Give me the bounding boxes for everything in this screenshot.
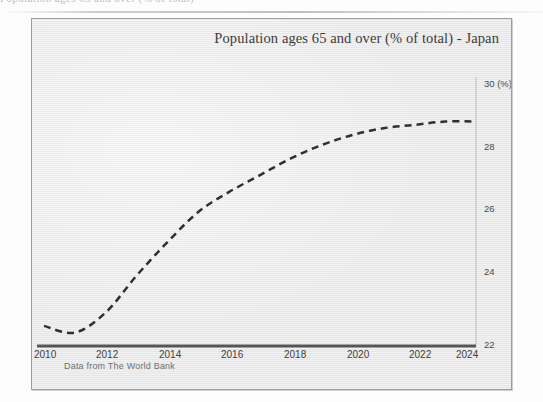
y-tick-label-28: 28 (484, 141, 495, 152)
x-tick-label-2014: 2014 (159, 349, 181, 360)
scanned-page: Population ages 65 and over (% of total)… (0, 0, 543, 402)
chart-title: Population ages 65 and over (% of total)… (214, 30, 499, 47)
x-tick-label-2018: 2018 (284, 349, 306, 360)
x-tick-label-2022: 2022 (409, 349, 431, 360)
y-tick-label-26: 26 (484, 203, 495, 214)
y-tick-label-24: 24 (484, 266, 495, 277)
x-tick-label-2016: 2016 (221, 349, 243, 360)
series-line-japan (44, 121, 476, 333)
chart-plot-area (32, 19, 511, 389)
source-note: Data from The World Bank (64, 361, 175, 371)
x-tick-label-2020: 2020 (347, 349, 369, 360)
x-tick-label-2010: 2010 (34, 349, 56, 360)
scan-shadow (0, 11, 543, 13)
y-tick-label-30: 30 (%) (484, 78, 512, 89)
y-tick-label-22: 22 (484, 339, 495, 350)
x-tick-label-2012: 2012 (96, 349, 118, 360)
cut-off-text: Population ages 65 and over (% of total) (0, 0, 194, 4)
x-tick-label-2024: 2024 (456, 349, 478, 360)
chart-frame: Population ages 65 and over (% of total)… (31, 18, 512, 390)
